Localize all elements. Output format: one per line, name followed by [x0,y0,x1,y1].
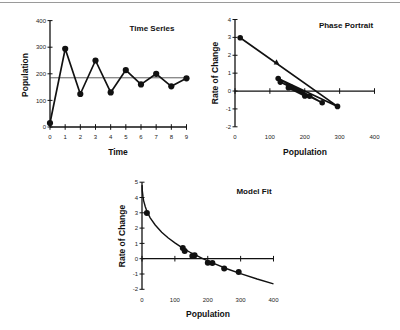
data-point [123,67,129,73]
data-point [92,57,98,63]
data-point [221,266,227,272]
y-tick-label: -1 [226,106,232,112]
y-tick-label: 1 [135,241,139,247]
x-tick-label: 200 [203,297,214,303]
x-tick-label: 0 [140,297,144,303]
data-point [335,104,341,110]
y-axis-title: Rate of Change [117,205,127,268]
y-tick-label: 2 [228,52,232,58]
y-tick-label: -1 [133,271,139,277]
data-point [108,89,114,95]
y-tick-label: 300 [36,44,47,50]
x-tick-label: 200 [300,134,311,140]
y-tick-label: -2 [133,286,139,292]
series-line [240,38,337,107]
x-tick-label: 1 [63,134,67,140]
data-point [189,253,195,259]
x-tick-label: 100 [170,297,181,303]
chart-title: Phase Portrait [319,21,374,30]
x-axis-title: Time [108,147,128,157]
plot-area: 01002003004000123456789 [36,18,190,140]
x-tick-label: 0 [48,134,52,140]
chart-model-fit: -2-10123450100200300400 Model Fit Popula… [117,179,279,319]
y-tick-label: 100 [36,98,47,104]
series-line [50,49,187,123]
data-point [237,35,243,41]
y-tick-label: 3 [135,210,139,216]
x-tick-label: 9 [185,134,189,140]
chart-time-series: 01002003004000123456789 Time Series Time… [20,18,190,157]
y-tick-label: 1 [228,70,232,76]
data-point [205,260,211,266]
chart-phase-portrait: -2-1012340100200300400 Phase Portrait Po… [210,17,380,157]
x-tick-label: 7 [154,134,158,140]
x-tick-label: 100 [265,134,276,140]
x-axis-title: Population [186,309,230,319]
data-point [307,93,313,99]
plot-area: -2-10123450100200300400 [133,179,280,303]
y-tick-label: 3 [228,34,232,40]
x-tick-label: 400 [268,297,279,303]
y-tick-label: 0 [228,88,232,94]
x-axis-title: Population [283,147,327,157]
y-tick-label: 0 [135,256,139,262]
x-tick-label: 0 [233,134,237,140]
data-point [319,100,325,106]
y-tick-label: 400 [36,18,47,24]
data-point [77,91,83,97]
data-point [286,85,292,91]
data-point [168,83,174,89]
x-tick-label: 5 [124,134,128,140]
data-point [153,71,159,77]
data-point [138,81,144,87]
data-point [144,210,150,216]
y-axis-title: Population [20,53,30,97]
data-point [182,248,188,254]
y-tick-label: 2 [135,225,139,231]
x-tick-label: 400 [369,134,380,140]
fit-curve [142,185,273,284]
y-tick-label: 0 [43,124,47,130]
y-axis-title: Rate of Change [210,42,220,105]
data-point [62,46,68,52]
data-point [236,269,242,275]
plot-area: -2-1012340100200300400 [226,17,381,140]
data-point [183,75,189,81]
x-tick-label: 6 [139,134,143,140]
chart-title: Time Series [130,24,175,33]
x-tick-label: 3 [94,134,98,140]
data-point [302,93,308,99]
figure: 01002003004000123456789 Time Series Time… [0,0,400,330]
y-tick-label: 5 [135,179,139,185]
chart-title: Model Fit [236,187,271,196]
y-tick-label: -2 [226,124,232,130]
x-tick-label: 300 [335,134,346,140]
x-tick-label: 2 [79,134,83,140]
x-tick-label: 8 [170,134,174,140]
y-tick-label: 4 [135,195,139,201]
data-point [47,120,53,126]
x-tick-label: 300 [236,297,247,303]
data-point [278,79,284,85]
y-tick-label: 4 [228,17,232,23]
y-tick-label: 200 [36,71,47,77]
x-tick-label: 4 [109,134,113,140]
